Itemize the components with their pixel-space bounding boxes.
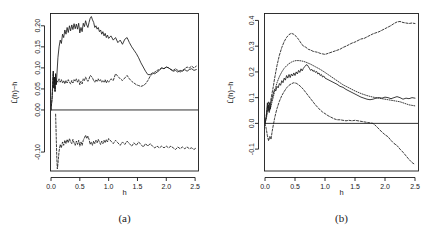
- figure-two-panel-l-function: 0.00.51.01.52.02.5 -0.100.000.050.100.15…: [0, 0, 439, 229]
- panel-b-y-tick-label: -0.1: [248, 143, 255, 155]
- panel-b-y-tick-label: 0.3: [248, 41, 255, 51]
- panel-a-y-axis-title: L̂(h)−h: [10, 82, 19, 104]
- panel-a-x-tick-label: 1.5: [133, 183, 143, 190]
- panel-b-y-tick-label: 0.1: [248, 93, 255, 103]
- panel-a-y-tick-label: 0.20: [34, 19, 41, 33]
- panel-b-x-tick-label: 1.0: [320, 183, 330, 190]
- panel-b-y-tick-label: 0.2: [248, 67, 255, 77]
- panel-a-x-tick-label: 1.0: [104, 183, 114, 190]
- panel-b-y-axis-title: L̂(h)−h: [226, 82, 235, 104]
- panel-b-x-tick-label: 2.5: [410, 183, 420, 190]
- panel-a-y-tick-label: 0.15: [34, 40, 41, 54]
- panel-b-x-tick-label: 0.0: [260, 183, 270, 190]
- panel-a-y-tick-label: 0.05: [34, 82, 41, 96]
- panel-b-x-axis-title: h: [339, 188, 343, 197]
- panel-a-caption: (a): [118, 212, 131, 225]
- panel-a-x-tick-label: 0.5: [75, 183, 85, 190]
- panel-a-x-axis-title: h: [122, 188, 126, 197]
- panel-a-x-tick-label: 0.0: [46, 183, 56, 190]
- panel-a-x-tick-label: 2.0: [161, 183, 171, 190]
- panel-b-caption: (b): [335, 212, 348, 225]
- panel-b-x-tick-label: 1.5: [350, 183, 360, 190]
- panel-a-x-tick-label: 2.5: [190, 183, 200, 190]
- panel-b-y-tick-label: 0.4: [248, 15, 255, 25]
- panel-a-y-tick-label: -0.10: [34, 144, 41, 160]
- panel-b-x-tick-label: 0.5: [290, 183, 300, 190]
- panel-a-y-tick-label: 0.00: [34, 103, 41, 117]
- panel-b-x-tick-label: 2.0: [380, 183, 390, 190]
- panel-b-y-tick-label: 0.0: [248, 118, 255, 128]
- panel-a-y-tick-label: 0.10: [34, 61, 41, 75]
